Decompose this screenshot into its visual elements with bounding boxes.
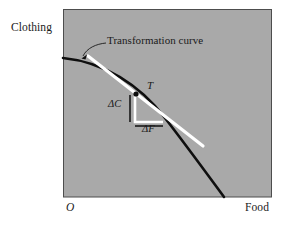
delta-f-label: ΔF <box>142 124 155 135</box>
tangency-point-marker <box>133 91 138 96</box>
transformation-curve-figure: Clothing Food O Transformation curve T Δ… <box>0 0 289 229</box>
axis-label-food: Food <box>245 202 269 214</box>
delta-c-label: ΔC <box>108 99 121 110</box>
axis-label-clothing: Clothing <box>11 22 52 34</box>
origin-label: O <box>66 202 74 214</box>
annotation-transformation-curve: Transformation curve <box>107 35 203 46</box>
point-label-t: T <box>147 80 153 91</box>
